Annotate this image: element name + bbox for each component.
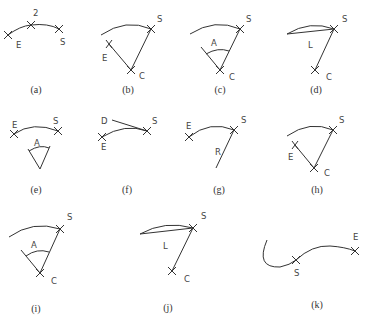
point-label-s: S [201, 211, 206, 221]
caption-d: (d) [310, 84, 322, 96]
cross-marker-icon [36, 269, 44, 277]
point-label-c: C [184, 274, 190, 284]
point-label-s: S [246, 14, 251, 24]
point-label-2: 2 [33, 8, 38, 18]
point-label-s: S [157, 14, 162, 24]
cross-marker-icon [292, 256, 300, 264]
caption-a: (a) [30, 84, 41, 96]
cross-marker-icon [54, 127, 62, 135]
cross-marker-icon [98, 133, 106, 141]
point-label-c: C [229, 72, 235, 82]
caption-i: (i) [31, 303, 40, 315]
caption-g: (g) [213, 184, 225, 196]
panel-b: S E C (b) [101, 14, 162, 96]
point-label-e: E [101, 142, 106, 152]
cross-marker-icon [143, 127, 151, 135]
caption-b: (b) [122, 84, 134, 96]
cross-marker-icon [236, 25, 244, 33]
point-label-c: C [326, 72, 332, 82]
panel-a: E 2 S (a) [4, 8, 65, 96]
cross-marker-icon [292, 141, 298, 149]
caption-h: (h) [311, 184, 323, 196]
length-label-l: L [308, 40, 313, 50]
point-label-s: S [152, 116, 157, 126]
panel-d: S L C (d) [287, 14, 347, 96]
length-label-l: L [163, 241, 168, 251]
point-label-c: C [51, 276, 57, 286]
caption-f: (f) [122, 184, 132, 196]
cross-marker-icon [310, 164, 318, 172]
angle-label-a: A [31, 240, 37, 250]
point-label-s: S [60, 37, 65, 47]
caption-c: (c) [214, 84, 225, 96]
direction-label-d: D [101, 116, 108, 126]
caption-e: (e) [30, 184, 41, 196]
cross-marker-icon [351, 247, 359, 255]
point-label-c: C [324, 168, 330, 178]
point-label-s: S [53, 116, 58, 126]
cross-marker-icon [230, 126, 238, 134]
panel-h: S E C (h) [287, 115, 344, 196]
point-label-c: C [139, 71, 145, 81]
point-label-s: S [339, 115, 344, 125]
cross-marker-icon [56, 225, 64, 233]
arc-options-diagram: E 2 S (a) S E C (b) S A C (c) S L [0, 0, 370, 326]
point-label-e: E [186, 121, 191, 131]
cross-marker-icon [55, 25, 63, 33]
point-label-e: E [12, 120, 17, 130]
cross-marker-icon [329, 126, 337, 134]
panel-c: S A C (c) [190, 14, 251, 96]
cross-marker-icon [127, 66, 135, 74]
cross-marker-icon [168, 267, 176, 275]
point-label-s: S [67, 212, 72, 222]
point-label-e: E [353, 232, 358, 242]
cross-marker-icon [10, 130, 18, 138]
point-label-s: S [241, 115, 246, 125]
cross-marker-icon [216, 66, 224, 74]
cross-marker-icon [106, 40, 112, 48]
point-label-e: E [16, 40, 21, 50]
caption-k: (k) [311, 299, 323, 311]
panel-e: E S A (e) [10, 116, 62, 196]
caption-j: (j) [163, 302, 172, 314]
point-label-s: S [294, 268, 299, 278]
panel-g: E S R (g) [185, 115, 246, 196]
cross-marker-icon [4, 31, 12, 39]
point-label-e: E [288, 152, 293, 162]
panel-j: S L C (j) [140, 211, 206, 314]
point-label-e: E [102, 53, 107, 63]
point-label-s: S [342, 14, 347, 24]
cross-marker-icon [185, 133, 193, 141]
cross-marker-icon [311, 66, 319, 74]
panel-f: D S E (f) [98, 116, 157, 196]
panel-k: S E (k) [263, 232, 359, 311]
panel-i: S A C (i) [9, 212, 72, 315]
angle-label-a: A [34, 138, 40, 148]
angle-label-a: A [211, 38, 217, 48]
cross-marker-icon [147, 25, 155, 33]
radius-label-r: R [215, 147, 221, 157]
